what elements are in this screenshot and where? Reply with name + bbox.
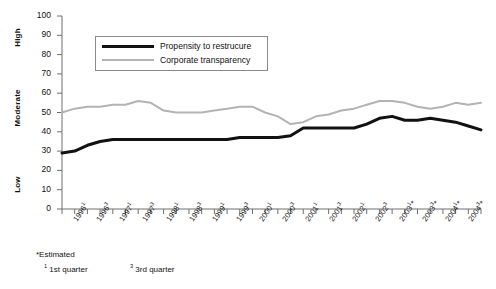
y-tick-label: 0 bbox=[31, 203, 51, 213]
legend-label-propensity: Propensity to restrucure bbox=[160, 41, 251, 51]
y-axis-category-low: Low bbox=[13, 169, 22, 199]
y-tick-label: 40 bbox=[31, 126, 51, 136]
legend-swatch-light-icon bbox=[102, 59, 154, 61]
y-tick-label: 60 bbox=[31, 87, 51, 97]
footnote-q3-text: 3rd quarter bbox=[135, 265, 174, 274]
chart-series-group bbox=[62, 101, 481, 153]
y-tick-label: 80 bbox=[31, 49, 51, 59]
footnote-estimated: *Estimated bbox=[36, 250, 75, 259]
legend-swatch-dark-icon bbox=[102, 45, 154, 48]
y-tick-label: 20 bbox=[31, 164, 51, 174]
footnote-first-quarter: 1 1st quarter bbox=[44, 263, 88, 274]
y-tick-label: 30 bbox=[31, 145, 51, 155]
y-axis-category-moderate: Moderate bbox=[13, 96, 22, 126]
legend-item-propensity: Propensity to restrucure bbox=[102, 41, 251, 51]
y-tick-label: 100 bbox=[31, 10, 51, 20]
y-axis-category-high: High bbox=[13, 23, 22, 53]
footnote-q1-superscript: 1 bbox=[44, 263, 47, 269]
y-tick-label: 10 bbox=[31, 184, 51, 194]
legend-label-transparency: Corporate transparency bbox=[160, 55, 250, 65]
series-line-propensity-to-restructure bbox=[62, 116, 481, 153]
legend-item-transparency: Corporate transparency bbox=[102, 55, 250, 65]
chart-container: 0102030405060708090100 LowModerateHigh 1… bbox=[0, 0, 496, 289]
footnote-q3-superscript: 3 bbox=[130, 263, 133, 269]
footnote-q1-text: 1st quarter bbox=[49, 265, 87, 274]
y-tick-label: 90 bbox=[31, 29, 51, 39]
y-tick-label: 70 bbox=[31, 68, 51, 78]
y-tick-label: 50 bbox=[31, 107, 51, 117]
chart-legend: Propensity to restrucure Corporate trans… bbox=[95, 36, 268, 71]
footnote-third-quarter: 3 3rd quarter bbox=[130, 263, 175, 274]
